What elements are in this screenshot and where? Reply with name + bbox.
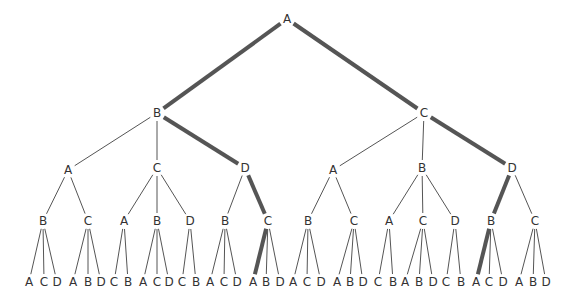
tree-node-label: B — [192, 275, 200, 289]
tree-node-label: D — [185, 214, 194, 228]
highlighted-edge — [164, 24, 281, 109]
highlighted-edge — [494, 175, 509, 213]
tree-node-label: D — [240, 161, 249, 175]
tree-node-label: C — [178, 275, 186, 289]
tree-edge — [295, 229, 306, 274]
tree-edge — [75, 229, 86, 274]
tree-node-label: A — [25, 275, 34, 289]
tree-edge — [393, 175, 418, 214]
tree-edge — [43, 229, 44, 274]
tree-edge — [456, 229, 460, 274]
tree-edge — [90, 229, 100, 274]
tree-node-label: D — [52, 275, 61, 289]
tree-node-label: B — [84, 275, 92, 289]
tree-node-label: B — [304, 214, 312, 228]
tree-edge — [536, 229, 544, 274]
tree-node-label: A — [139, 275, 148, 289]
tree-node-label: D — [507, 161, 516, 175]
tree-node-label: B — [389, 275, 397, 289]
tree-node-label: A — [206, 275, 215, 289]
tree-edge — [115, 229, 122, 274]
tree-node-label: C — [84, 214, 92, 228]
tree-node-label: A — [69, 275, 78, 289]
highlighted-edge — [294, 24, 418, 109]
tree-edge — [336, 177, 351, 213]
tree-node-label: C — [153, 161, 161, 175]
tree-edge — [420, 229, 423, 274]
highlighted-edge — [255, 229, 266, 274]
tree-edge — [212, 229, 223, 274]
highlighted-edge — [164, 117, 238, 164]
tree-node-label: C — [220, 275, 228, 289]
tree-node-label: A — [283, 12, 292, 26]
tree-node-label: C — [531, 214, 539, 228]
tree-node-label: B — [457, 275, 465, 289]
tree-edge — [355, 229, 362, 274]
tree-edge — [266, 229, 267, 274]
tree-node-label: D — [450, 214, 459, 228]
tree-edge — [407, 229, 420, 275]
tree-node-label: B — [153, 214, 161, 228]
tree-node-label: A — [401, 275, 410, 289]
tree-edge — [161, 175, 186, 214]
tree-edge — [145, 229, 155, 274]
tree-node-label: A — [385, 214, 394, 228]
tree-edge — [351, 229, 354, 274]
tree-node-label: B — [415, 275, 423, 289]
tree-node-label: C — [485, 275, 493, 289]
tree-edge — [424, 229, 431, 274]
tree-node-label: D — [164, 275, 173, 289]
tree-node-label: D — [275, 275, 284, 289]
tree-node-label: C — [153, 275, 161, 289]
tree-edge — [128, 175, 153, 214]
tree-node-label: C — [350, 214, 358, 228]
tree-edge — [515, 175, 532, 213]
tree-edges — [31, 24, 545, 275]
tree-edge — [426, 175, 451, 214]
tree-node-label: C — [442, 275, 450, 289]
tree-edge — [307, 229, 308, 274]
highlighted-edge — [248, 175, 265, 213]
tree-node-label: D — [428, 275, 437, 289]
tree-node-label: D — [498, 275, 507, 289]
tree-node-label: B — [262, 275, 270, 289]
tree-edge — [422, 176, 423, 213]
tree-edge — [339, 229, 352, 275]
tree-node-label: C — [40, 275, 48, 289]
tree-edge — [447, 229, 454, 274]
tree-edge — [75, 117, 151, 165]
tree-node-label: C — [264, 214, 272, 228]
tree-node-label: D — [96, 275, 105, 289]
tree-edge — [159, 229, 168, 274]
tree-node-label: D — [541, 275, 550, 289]
tree-nodes: ABABACDCABDCACBBACDDCBDBACDCABDCABACDCAB… — [25, 12, 551, 289]
tree-node-label: A — [515, 275, 524, 289]
tree-node-label: C — [420, 106, 428, 120]
permutation-tree-diagram: ABABACDCABDCACBBACDDCBDBACDCABDCABACDCAB… — [0, 0, 573, 304]
tree-node-label: C — [419, 214, 427, 228]
tree-node-label: D — [316, 275, 325, 289]
tree-edge — [270, 229, 279, 274]
tree-node-label: A — [289, 275, 298, 289]
tree-edge — [422, 121, 423, 160]
tree-node-label: B — [529, 275, 537, 289]
tree-edge — [533, 229, 534, 274]
tree-node-label: C — [110, 275, 118, 289]
tree-node-label: A — [64, 163, 73, 177]
tree-edge — [125, 229, 128, 274]
tree-node-label: A — [472, 275, 481, 289]
tree-edge — [340, 117, 417, 166]
tree-node-label: D — [358, 275, 367, 289]
tree-edge — [183, 229, 189, 274]
tree-edge — [521, 229, 533, 275]
tree-edge — [379, 229, 387, 274]
tree-node-label: B — [153, 106, 161, 120]
tree-node-label: A — [333, 275, 342, 289]
tree-edge — [224, 229, 225, 274]
tree-edge — [31, 229, 41, 274]
tree-edge — [390, 229, 393, 274]
tree-edge — [312, 177, 330, 214]
tree-node-label: A — [249, 275, 258, 289]
tree-node-label: B — [418, 161, 426, 175]
tree-node-label: B — [487, 214, 495, 228]
